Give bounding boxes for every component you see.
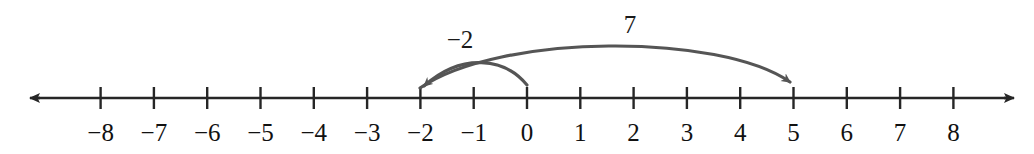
jump-arc-seven-label: 7 (624, 11, 637, 38)
jump-arc-seven-path (420, 46, 790, 88)
axis-tick-label: 2 (627, 119, 640, 146)
axis-tick-label: 3 (681, 119, 694, 146)
axis-tick-label: −1 (460, 119, 487, 146)
axis-tick-label: −3 (354, 119, 381, 146)
jump-arc-minus-two-label: −2 (447, 26, 474, 53)
axis-tick-label: 1 (574, 119, 587, 146)
axis-tick-label: −2 (407, 119, 434, 146)
axis-tick-label: −8 (87, 119, 114, 146)
axis-tick-label: 5 (787, 119, 800, 146)
number-line-canvas: −8−7−6−5−4−3−2−1012345678 −2 7 (0, 0, 1034, 154)
axis-tick-label: 4 (734, 119, 747, 146)
jump-arc-minus-two-path (424, 63, 527, 86)
axis-tick-label: 8 (947, 119, 960, 146)
axis-tick-label: 7 (894, 119, 907, 146)
axis-tick-label: −4 (300, 119, 327, 146)
axis-tick-label-group: −8−7−6−5−4−3−2−1012345678 (87, 119, 959, 146)
number-line-figure: −8−7−6−5−4−3−2−1012345678 −2 7 (0, 0, 1034, 154)
axis-tick-label: −5 (247, 119, 274, 146)
axis-tick-label: −6 (194, 119, 221, 146)
axis-tick-label: −7 (141, 119, 168, 146)
jump-arc-seven: 7 (420, 11, 790, 88)
axis-tick-label: 0 (521, 119, 534, 146)
axis-tick-label: 6 (841, 119, 854, 146)
